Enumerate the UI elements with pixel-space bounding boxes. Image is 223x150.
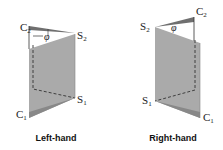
right-angle-phi: φ: [171, 22, 177, 33]
left-top-wedge: [29, 26, 75, 33]
right-label-s1: S1: [142, 94, 152, 108]
right-label-c1: C1: [203, 111, 214, 125]
left-label-s2: S2: [77, 29, 87, 43]
left-hand-figure: C2 S2 S1 C1 φ Left-hand: [16, 21, 87, 143]
left-angle-phi: φ: [44, 31, 50, 42]
left-label-s1: S1: [77, 93, 87, 107]
right-caption: Right-hand: [149, 133, 197, 143]
left-label-c1: C1: [16, 108, 27, 122]
right-panel: [155, 27, 200, 118]
right-label-s2: S2: [140, 20, 150, 34]
right-label-c2: C2: [196, 5, 207, 19]
right-hand-figure: S2 C2 S1 C1 φ Right-hand: [140, 5, 214, 143]
left-caption: Left-hand: [36, 133, 77, 143]
left-label-c2: C2: [20, 21, 31, 35]
handedness-diagram: C2 S2 S1 C1 φ Left-hand S2 C2 S1 C1 φ Ri…: [0, 0, 223, 150]
